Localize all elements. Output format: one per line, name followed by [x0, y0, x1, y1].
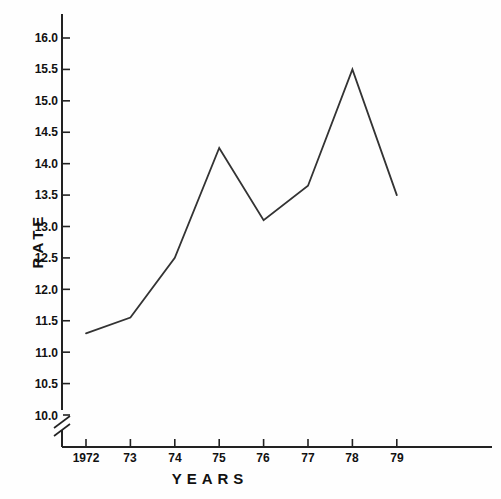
- plot-area: [0, 0, 501, 499]
- line-chart: RATE 16.0 15.5 15.0 14.5 14.0 13.5 13.0 …: [0, 0, 501, 499]
- data-series-line: [86, 69, 397, 333]
- x-axis-ticks: [86, 439, 397, 446]
- y-axis-ticks: [63, 38, 70, 415]
